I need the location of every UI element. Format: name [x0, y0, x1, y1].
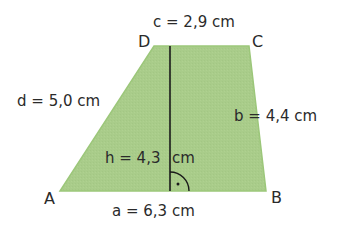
vertex-label-b: B: [271, 188, 282, 207]
right-angle-dot-icon: [177, 183, 180, 186]
vertex-label-d: D: [138, 32, 150, 51]
side-label-c: c = 2,9 cm: [153, 13, 235, 31]
diagram-canvas: A B C D c = 2,9 cm d = 5,0 cm b = 4,4 cm…: [0, 0, 343, 235]
height-label-unit: cm: [172, 149, 195, 167]
side-label-b: b = 4,4 cm: [234, 107, 317, 125]
trapezoid-diagram: A B C D c = 2,9 cm d = 5,0 cm b = 4,4 cm…: [0, 0, 343, 235]
vertex-label-a: A: [44, 189, 55, 208]
height-label-value: h = 4,3: [105, 149, 160, 167]
side-label-d: d = 5,0 cm: [17, 92, 100, 110]
side-label-a: a = 6,3 cm: [112, 202, 195, 220]
vertex-label-c: C: [252, 32, 263, 51]
